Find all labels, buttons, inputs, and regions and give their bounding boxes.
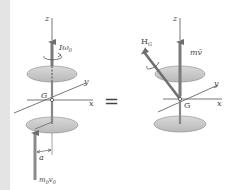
- left-figure: z x y G Iω0 a m0v0: [14, 14, 94, 185]
- left-impulse-label: m0v0: [39, 176, 57, 185]
- right-center-point: [178, 97, 181, 100]
- left-y-axis: [14, 83, 86, 113]
- right-linear-momentum-label: mv̄: [190, 48, 203, 57]
- right-y-label: y: [213, 79, 219, 88]
- right-g-label: G: [184, 101, 190, 110]
- left-center-point: [50, 98, 53, 101]
- right-angular-momentum-label: HG: [141, 37, 152, 47]
- right-z-label: z: [172, 14, 178, 23]
- left-g-label: G: [41, 91, 48, 100]
- left-z-label: z: [44, 14, 50, 23]
- right-x-label: x: [217, 99, 222, 108]
- left-offset-label: a: [39, 153, 44, 162]
- rigid-body-impulse-diagram: z x y G Iω0 a m0v0 = z x y G HG mv̄: [0, 0, 234, 190]
- equals-sign: =: [104, 91, 119, 112]
- left-angular-momentum-label: Iω0: [58, 43, 73, 53]
- left-y-label: y: [83, 77, 89, 86]
- left-x-label: x: [89, 99, 94, 108]
- right-figure: z x y G HG mv̄: [141, 14, 222, 132]
